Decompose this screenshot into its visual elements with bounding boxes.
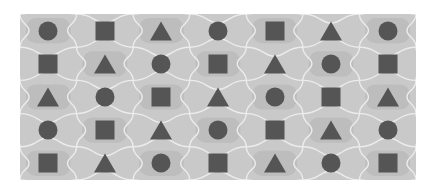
circle-icon bbox=[39, 121, 58, 140]
square-icon bbox=[95, 121, 114, 140]
triangle-icon bbox=[264, 54, 286, 73]
puzzle-cell[interactable] bbox=[133, 14, 190, 47]
puzzle-cell[interactable] bbox=[20, 80, 77, 113]
square-icon bbox=[152, 87, 171, 106]
circle-icon bbox=[322, 154, 341, 173]
circle-icon bbox=[265, 87, 284, 106]
puzzle-cell[interactable] bbox=[133, 114, 190, 147]
square-icon bbox=[265, 21, 284, 40]
square-icon bbox=[39, 154, 58, 173]
puzzle-cell[interactable] bbox=[133, 147, 190, 180]
triangle-icon bbox=[320, 121, 342, 140]
puzzle-cell[interactable] bbox=[303, 14, 360, 47]
square-icon bbox=[208, 154, 227, 173]
puzzle-cell[interactable] bbox=[303, 147, 360, 180]
puzzle-cell[interactable] bbox=[77, 80, 134, 113]
circle-icon bbox=[322, 54, 341, 73]
square-icon bbox=[208, 54, 227, 73]
puzzle-cell[interactable] bbox=[20, 114, 77, 147]
puzzle-cell[interactable] bbox=[303, 47, 360, 80]
circle-icon bbox=[152, 154, 171, 173]
puzzle-cell[interactable] bbox=[359, 114, 416, 147]
puzzle-cell[interactable] bbox=[190, 114, 247, 147]
triangle-icon bbox=[94, 54, 116, 73]
circle-icon bbox=[378, 21, 397, 40]
puzzle-cell[interactable] bbox=[359, 47, 416, 80]
puzzle-cell[interactable] bbox=[246, 114, 303, 147]
circle-icon bbox=[39, 21, 58, 40]
puzzle-cell[interactable] bbox=[359, 147, 416, 180]
puzzle-cell[interactable] bbox=[246, 147, 303, 180]
puzzle-cell[interactable] bbox=[77, 114, 134, 147]
triangle-icon bbox=[37, 87, 59, 106]
circle-icon bbox=[208, 21, 227, 40]
puzzle-cell[interactable] bbox=[133, 47, 190, 80]
square-icon bbox=[378, 154, 397, 173]
puzzle-cell[interactable] bbox=[20, 147, 77, 180]
triangle-icon bbox=[320, 21, 342, 40]
puzzle-cell[interactable] bbox=[359, 14, 416, 47]
puzzle-cell[interactable] bbox=[77, 147, 134, 180]
triangle-icon bbox=[150, 121, 172, 140]
square-icon bbox=[95, 21, 114, 40]
puzzle-board bbox=[20, 14, 416, 180]
square-icon bbox=[378, 54, 397, 73]
circle-icon bbox=[208, 121, 227, 140]
square-icon bbox=[39, 54, 58, 73]
puzzle-cell[interactable] bbox=[190, 80, 247, 113]
puzzle-cell[interactable] bbox=[190, 147, 247, 180]
triangle-icon bbox=[207, 87, 229, 106]
triangle-icon bbox=[150, 21, 172, 40]
puzzle-cell[interactable] bbox=[303, 80, 360, 113]
puzzle-cell[interactable] bbox=[359, 80, 416, 113]
triangle-icon bbox=[377, 87, 399, 106]
circle-icon bbox=[152, 54, 171, 73]
puzzle-cell[interactable] bbox=[20, 14, 77, 47]
square-icon bbox=[265, 121, 284, 140]
puzzle-cell[interactable] bbox=[246, 14, 303, 47]
circle-icon bbox=[378, 121, 397, 140]
square-icon bbox=[322, 87, 341, 106]
puzzle-cell[interactable] bbox=[77, 47, 134, 80]
puzzle-cell[interactable] bbox=[133, 80, 190, 113]
puzzle-cell[interactable] bbox=[303, 114, 360, 147]
puzzle-cell[interactable] bbox=[20, 47, 77, 80]
triangle-icon bbox=[264, 154, 286, 173]
puzzle-cell[interactable] bbox=[246, 47, 303, 80]
triangle-icon bbox=[94, 154, 116, 173]
puzzle-cell[interactable] bbox=[77, 14, 134, 47]
circle-icon bbox=[95, 87, 114, 106]
puzzle-cell[interactable] bbox=[246, 80, 303, 113]
puzzle-cell[interactable] bbox=[190, 14, 247, 47]
puzzle-cell[interactable] bbox=[190, 47, 247, 80]
